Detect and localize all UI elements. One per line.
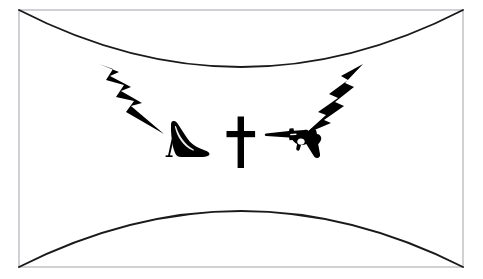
artwork-canvas: Lightning, High Heel, Cross and Revolver… xyxy=(0,0,483,279)
composition-svg xyxy=(0,0,483,279)
